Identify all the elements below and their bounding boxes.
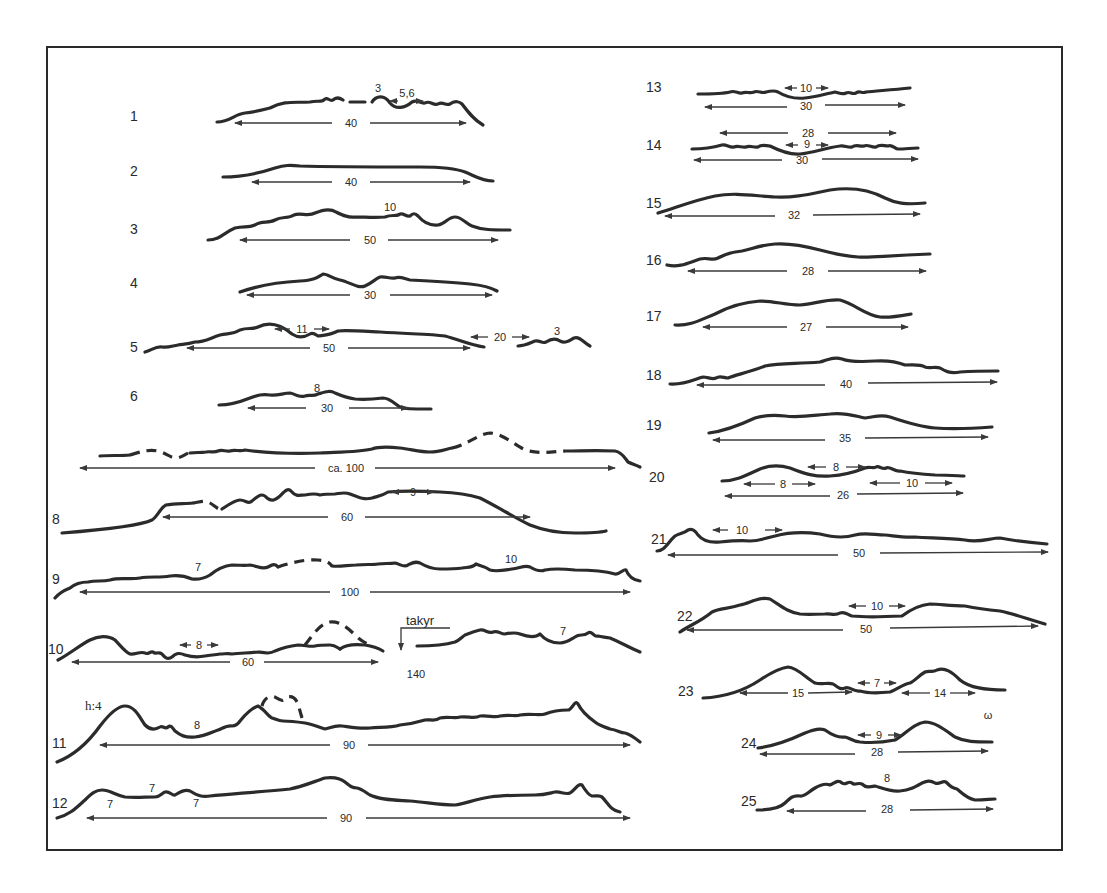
span-label: 28	[881, 803, 893, 815]
profile-label: 24	[741, 735, 757, 751]
span-label: ca. 100	[328, 462, 364, 474]
annotation: 7	[149, 782, 155, 794]
span-label: 90	[340, 812, 352, 824]
span-label: 50	[364, 234, 376, 246]
span-label: 60	[242, 656, 254, 668]
profile-22: 22 10 50	[677, 598, 1045, 635]
span-label: 30	[321, 402, 333, 414]
profile-9: 9 100 7 10	[52, 553, 640, 598]
span-label: 27	[800, 321, 812, 333]
profile-17: 17 27	[646, 300, 911, 333]
span-label: 35	[839, 432, 851, 444]
annotation: 3	[554, 325, 560, 337]
profile-11: 11 h:4 90 8	[52, 696, 640, 762]
profile-5: 5 50 11 20 3	[130, 323, 590, 355]
profile-8: 8 60 9	[52, 486, 606, 533]
profile-13: 13 30 10	[646, 79, 910, 112]
span-label: 30	[796, 154, 808, 166]
profile-label: 6	[130, 388, 138, 404]
annotation: 7	[874, 677, 880, 689]
profile-19: 19 35	[646, 413, 992, 444]
profile-label: 4	[130, 275, 138, 291]
annotation: 9	[804, 138, 810, 150]
annotation: 9	[410, 486, 416, 498]
profile-16: 16 28	[646, 244, 930, 277]
profile-18: 18 40	[646, 358, 998, 390]
annotation: 8	[194, 719, 200, 731]
profile-label: 11	[52, 735, 67, 751]
annotation: 8	[884, 772, 890, 784]
span-label: 28	[802, 265, 814, 277]
annotation: 7	[195, 561, 201, 573]
span-label: 30	[364, 289, 376, 301]
annotation: 8	[833, 461, 839, 473]
profile-25: 25 8 28	[741, 772, 995, 815]
annotation: 20	[494, 331, 506, 343]
profile-20: 20 8 8 10 26	[649, 461, 964, 501]
profile-label: 3	[130, 221, 138, 237]
profile-3: 3 50 10	[130, 201, 510, 246]
span-label: 32	[788, 209, 800, 221]
profile-label: 14	[646, 137, 662, 153]
annotation: 8	[780, 478, 786, 490]
span-label: 100	[341, 586, 359, 598]
profile-6: 6 30 8	[130, 382, 431, 414]
profile-label: 16	[646, 252, 662, 268]
span-label: 40	[345, 176, 357, 188]
profile-21: 21 10 50	[651, 524, 1048, 559]
profile-23: 23 15 7 14 ω	[678, 667, 1005, 721]
profile-12: 12 90 7 7 7	[52, 778, 630, 824]
span-label: 50	[323, 342, 335, 354]
annotation: 14	[934, 687, 946, 699]
stray-mark: ω	[984, 709, 993, 721]
profile-14: 14 28 9 30	[646, 127, 918, 166]
profile-label: 20	[649, 469, 665, 485]
profile-label: 15	[646, 195, 662, 211]
profile-label: 17	[646, 308, 662, 324]
annotation: 10	[384, 201, 396, 213]
profile-label: 25	[741, 793, 757, 809]
annotation: 10	[736, 524, 748, 536]
profile-24: 24 9 28	[741, 722, 992, 758]
profile-10: 10 60 8 takyr 7 140	[48, 613, 640, 680]
profile-label: 21	[651, 531, 667, 547]
annotation: 7	[560, 625, 566, 637]
annotation: 10	[906, 477, 918, 489]
annotation: 8	[314, 382, 320, 394]
span-label: 40	[345, 117, 357, 129]
takyr-label: takyr	[406, 613, 435, 628]
span-label: 28	[871, 746, 883, 758]
annotation: 10	[800, 82, 812, 94]
profile-7: ca. 100	[80, 433, 640, 474]
profile-2: 2 40	[130, 163, 493, 188]
profile-label: 19	[646, 417, 662, 433]
span-label: 40	[840, 378, 852, 390]
profile-label: 12	[52, 795, 68, 811]
annotation: 7	[193, 797, 199, 809]
profile-label: 22	[677, 608, 693, 624]
profile-label: 1	[130, 108, 138, 124]
span-label: 90	[343, 739, 355, 751]
profile-label: 9	[52, 571, 60, 587]
annotation: 140	[407, 668, 425, 680]
span-label: 50	[860, 623, 872, 635]
height-annotation: h:4	[85, 698, 102, 713]
profile-15: 15 32	[646, 189, 925, 221]
profile-label: 10	[48, 641, 64, 657]
profile-label: 23	[678, 683, 694, 699]
profile-1: 1 40 3 5,6	[130, 82, 483, 129]
profiles-diagram: 1 40 3 5,6 2 40 3 50 10 4 30 5	[0, 0, 1107, 893]
annotation: 5,6	[399, 87, 414, 99]
annotation: 11	[296, 323, 307, 335]
profile-4: 4 30	[130, 274, 497, 301]
annotation: 15	[792, 687, 804, 699]
profile-label: 5	[130, 339, 138, 355]
span-label: 26	[837, 489, 849, 501]
annotation: 10	[505, 553, 517, 565]
span-label: 60	[341, 511, 353, 523]
profile-label: 13	[646, 79, 662, 95]
profile-label: 2	[130, 163, 138, 179]
annotation: 9	[876, 729, 882, 741]
annotation: 3	[375, 82, 381, 94]
profile-label: 8	[52, 511, 60, 527]
